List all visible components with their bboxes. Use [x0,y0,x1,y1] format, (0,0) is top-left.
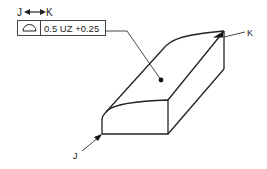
point-k-marker: K [213,28,253,38]
bottom-long-edge [168,69,224,134]
surface-dot-icon [159,78,164,83]
between-from-label: J [17,7,22,18]
block-part [102,31,224,134]
point-j-label: J [73,151,78,161]
middle-edge [168,31,224,100]
point-k-label: K [247,28,253,38]
between-indicator: J K [17,7,53,18]
point-j-marker: J [73,134,102,161]
between-arrow-left-icon [24,9,30,15]
between-to-label: K [46,7,53,18]
tolerance-value: 0.5 UZ +0.25 [44,23,99,34]
profile-tolerance-diagram: J K 0.5 UZ +0.25 K J [0,0,267,169]
leader-line [106,31,164,82]
feature-control-frame: 0.5 UZ +0.25 [18,21,106,36]
